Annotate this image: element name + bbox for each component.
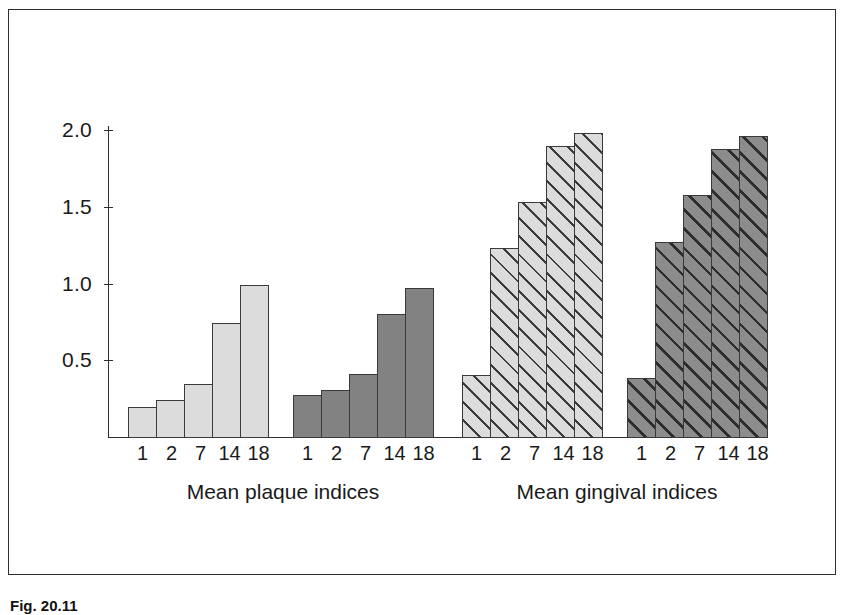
bars-container bbox=[128, 126, 268, 438]
y-tick-label: 1.0 bbox=[34, 273, 92, 294]
bar[interactable] bbox=[518, 202, 547, 438]
bar[interactable] bbox=[293, 395, 322, 438]
y-axis-line bbox=[108, 126, 109, 438]
x-tick-label: 14 bbox=[380, 443, 409, 463]
x-tick-label: 18 bbox=[743, 443, 772, 463]
chart-plot-area: 0.51.01.52.0 12714181271418Mean plaque i… bbox=[0, 0, 846, 615]
x-tick-label: 1 bbox=[293, 443, 322, 463]
x-tick-label: 7 bbox=[685, 443, 714, 463]
bars-container bbox=[462, 126, 602, 438]
y-tick-mark bbox=[104, 207, 113, 208]
y-tick-label: 0.5 bbox=[34, 349, 92, 370]
x-tick-label: 1 bbox=[627, 443, 656, 463]
bar[interactable] bbox=[349, 374, 378, 438]
x-tick-label: 18 bbox=[578, 443, 607, 463]
bar[interactable] bbox=[405, 288, 434, 438]
bar[interactable] bbox=[462, 375, 491, 438]
bar[interactable] bbox=[739, 136, 768, 438]
bar[interactable] bbox=[655, 242, 684, 438]
figure-caption: Fig. 20.11 bbox=[10, 596, 836, 615]
y-tick-mark bbox=[104, 130, 113, 131]
x-tick-label: 2 bbox=[491, 443, 520, 463]
bar[interactable] bbox=[574, 133, 603, 438]
x-tick-label: 7 bbox=[351, 443, 380, 463]
x-tick-label: 7 bbox=[186, 443, 215, 463]
bar[interactable] bbox=[377, 314, 406, 438]
bar[interactable] bbox=[128, 407, 157, 438]
y-tick-mark bbox=[104, 284, 113, 285]
x-tick-label: 2 bbox=[157, 443, 186, 463]
bars-container bbox=[627, 126, 767, 438]
y-tick-label: 1.5 bbox=[34, 196, 92, 217]
bar[interactable] bbox=[683, 195, 712, 438]
y-tick-label: 2.0 bbox=[34, 119, 92, 140]
x-tick-label: 7 bbox=[520, 443, 549, 463]
bars-container bbox=[293, 126, 433, 438]
bar[interactable] bbox=[546, 146, 575, 438]
x-tick-label: 1 bbox=[128, 443, 157, 463]
y-tick-mark bbox=[104, 360, 113, 361]
caption-label: Fig. 20.11 bbox=[10, 597, 78, 614]
x-tick-label: 14 bbox=[215, 443, 244, 463]
figure-page: 0.51.01.52.0 12714181271418Mean plaque i… bbox=[0, 0, 846, 615]
bar[interactable] bbox=[490, 248, 519, 438]
bar[interactable] bbox=[711, 149, 740, 438]
x-tick-label: 14 bbox=[549, 443, 578, 463]
x-tick-labels: 1271418 bbox=[462, 443, 607, 463]
x-tick-label: 18 bbox=[244, 443, 273, 463]
panel-label: Mean plaque indices bbox=[128, 480, 438, 503]
bar[interactable] bbox=[240, 285, 269, 439]
x-tick-label: 14 bbox=[714, 443, 743, 463]
x-tick-labels: 1271418 bbox=[293, 443, 438, 463]
panel-label: Mean gingival indices bbox=[462, 480, 772, 503]
x-tick-label: 1 bbox=[462, 443, 491, 463]
x-tick-labels: 1271418 bbox=[128, 443, 273, 463]
x-tick-label: 18 bbox=[409, 443, 438, 463]
bar[interactable] bbox=[184, 384, 213, 438]
bar[interactable] bbox=[627, 378, 656, 438]
bar[interactable] bbox=[156, 400, 185, 438]
x-tick-labels: 1271418 bbox=[627, 443, 772, 463]
x-tick-label: 2 bbox=[656, 443, 685, 463]
bar[interactable] bbox=[212, 323, 241, 438]
x-tick-label: 2 bbox=[322, 443, 351, 463]
bar[interactable] bbox=[321, 390, 350, 438]
